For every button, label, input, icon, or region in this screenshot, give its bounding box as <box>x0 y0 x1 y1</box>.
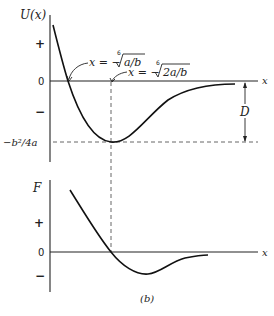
tick-minus-bottom: − <box>35 269 45 283</box>
f-axis-label: F <box>32 181 42 195</box>
annotation-min-radicand: 2a/b <box>162 66 187 79</box>
min-value-label: −b²/4a <box>3 137 38 148</box>
x-axis-label-bottom: x <box>262 247 268 258</box>
tick-plus-bottom: + <box>34 216 44 230</box>
potential-curve <box>53 25 235 142</box>
force-plot: F x + 0 − <box>32 180 268 292</box>
arrow-up-icon <box>243 82 247 88</box>
tick-zero-top: 0 <box>38 76 44 87</box>
force-curve <box>70 190 208 274</box>
potential-force-diagram: U(x) x + 0 − −b²/4a x = − 6 a/b x = − 6 … <box>0 0 274 316</box>
x-axis-label-top: x <box>262 75 268 86</box>
depth-label: D <box>239 105 250 119</box>
arrow-down-icon <box>243 136 247 142</box>
annotation-zero-root-index: 6 <box>117 49 121 56</box>
figure-caption: (b) <box>140 293 154 304</box>
u-axis-label: U(x) <box>20 8 47 22</box>
tick-zero-bottom: 0 <box>38 247 44 258</box>
tick-plus-top: + <box>35 37 45 51</box>
annotation-min-root-index: 6 <box>156 59 160 66</box>
annotation-arrow-zero <box>69 63 88 79</box>
tick-minus-top: − <box>35 105 45 119</box>
